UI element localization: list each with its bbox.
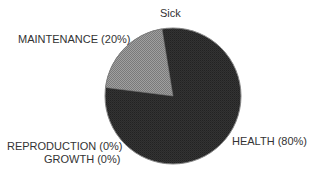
chart-title: Sick <box>160 7 181 19</box>
label-reproduction: REPRODUCTION (0%) <box>7 140 123 152</box>
label-health: HEALTH (80%) <box>232 135 307 147</box>
label-maintenance: MAINTENANCE (20%) <box>18 33 130 45</box>
label-growth: GROWTH (0%) <box>44 153 120 165</box>
